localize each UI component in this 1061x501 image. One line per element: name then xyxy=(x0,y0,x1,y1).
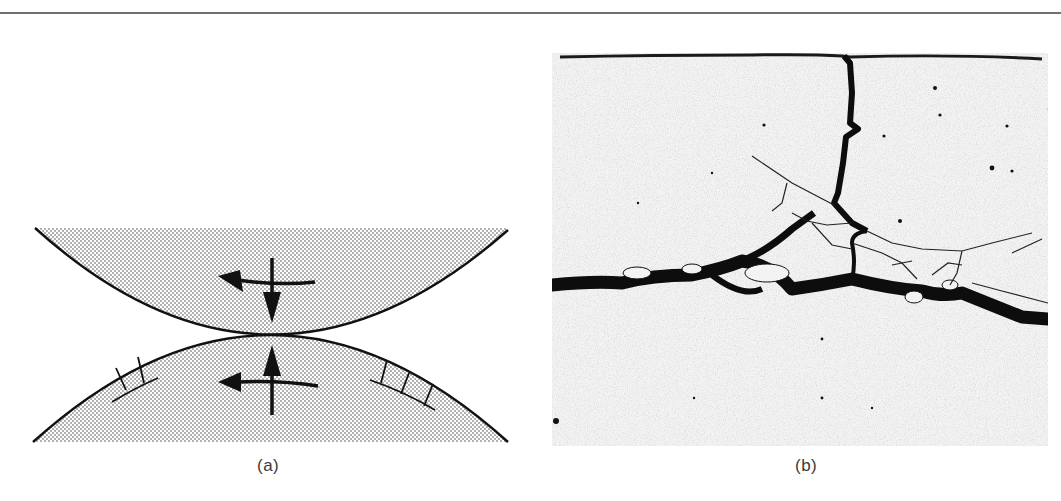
panel-b-micrograph xyxy=(552,53,1048,446)
contact-diagram xyxy=(0,0,540,501)
panel-a-schematic: (a) xyxy=(0,0,540,501)
panel-a-caption: (a) xyxy=(257,456,279,476)
panel-b-caption: (b) xyxy=(795,456,817,476)
crack-micrograph xyxy=(552,53,1048,446)
